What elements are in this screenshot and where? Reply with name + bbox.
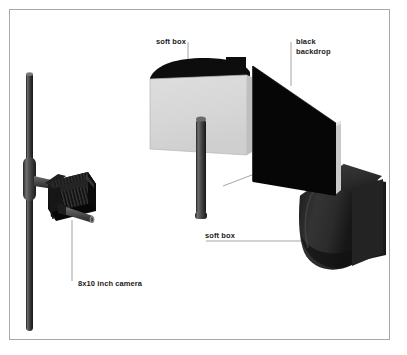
label-softbox-bottom: soft box xyxy=(205,231,235,241)
label-softbox-top: soft box xyxy=(156,37,186,47)
softbox-stand-pole xyxy=(195,116,207,219)
figure-container: soft box blackbackdrop soft box 8x10 inc… xyxy=(0,0,407,355)
label-black-backdrop-line2: backdrop xyxy=(296,47,331,56)
label-black-backdrop-line1: black xyxy=(296,37,316,46)
label-8x10-inch-camera: 8x10 inch camera xyxy=(78,279,142,289)
black-backdrop-object xyxy=(252,66,341,196)
label-black-backdrop: blackbackdrop xyxy=(296,37,331,56)
scene-illustration xyxy=(0,0,407,355)
camera-stand-pole xyxy=(26,72,33,331)
